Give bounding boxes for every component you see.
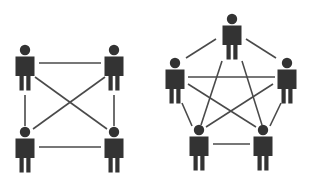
person-torso: [166, 70, 185, 90]
person-leg-left: [20, 75, 24, 91]
person-torso: [223, 26, 242, 46]
person-leg-right: [26, 157, 30, 173]
person-icon-bottom-right: [105, 127, 124, 173]
person-icon-bottom-right: [254, 125, 273, 171]
person-leg-left: [258, 155, 262, 171]
person-leg-right: [115, 157, 119, 173]
person-torso: [16, 57, 35, 77]
network-diagram: [0, 0, 312, 185]
person-leg-left: [227, 44, 231, 60]
link-A-D: [35, 77, 107, 129]
person-head: [194, 125, 204, 135]
link-P2-P4: [182, 103, 192, 126]
person-head: [282, 58, 292, 68]
person-torso: [105, 57, 124, 77]
person-leg-right: [233, 44, 237, 60]
person-leg-right: [176, 88, 180, 104]
person-leg-left: [109, 75, 113, 91]
person-icon-bottom-left: [190, 125, 209, 171]
person-head: [109, 127, 119, 137]
person-leg-left: [170, 88, 174, 104]
person-head: [227, 14, 237, 24]
person-leg-left: [194, 155, 198, 171]
diagram-canvas: [0, 0, 312, 185]
five-person-network-nodes: [166, 14, 297, 171]
link-P1-P4: [201, 61, 222, 125]
link-P1-P3: [246, 39, 276, 58]
link-P2-P5: [188, 84, 256, 127]
person-head: [170, 58, 180, 68]
four-person-network-links: [25, 63, 114, 147]
person-icon-bottom-left: [16, 127, 35, 173]
person-leg-left: [20, 157, 24, 173]
person-torso: [16, 139, 35, 159]
link-B-C: [33, 77, 105, 129]
person-torso: [105, 139, 124, 159]
person-torso: [254, 137, 273, 157]
person-icon-right: [278, 58, 297, 104]
person-icon-top-left: [16, 45, 35, 91]
person-icon-left: [166, 58, 185, 104]
four-person-network-nodes: [16, 45, 124, 173]
person-icon-top-right: [105, 45, 124, 91]
person-leg-right: [264, 155, 268, 171]
person-head: [20, 127, 30, 137]
person-leg-right: [200, 155, 204, 171]
person-head: [20, 45, 30, 55]
links-layer: [25, 39, 281, 147]
link-P3-P4: [206, 84, 273, 127]
link-P3-P5: [270, 103, 281, 126]
person-leg-left: [282, 88, 286, 104]
person-leg-right: [115, 75, 119, 91]
person-torso: [278, 70, 297, 90]
person-head: [258, 125, 268, 135]
link-P1-P2: [186, 39, 216, 58]
person-icon-top: [223, 14, 242, 60]
person-leg-right: [288, 88, 292, 104]
person-leg-right: [26, 75, 30, 91]
person-leg-left: [109, 157, 113, 173]
person-head: [109, 45, 119, 55]
person-torso: [190, 137, 209, 157]
